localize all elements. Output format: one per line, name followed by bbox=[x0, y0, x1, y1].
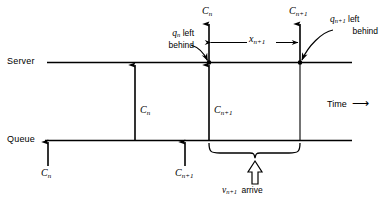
annotation-left-behind-n1-tail: left bbox=[346, 14, 360, 24]
annotation-left-behind-n-line1: qn left bbox=[132, 28, 194, 40]
arrival-interval-brace bbox=[209, 143, 300, 158]
arrival-label-n1-sub: n+1 bbox=[182, 172, 194, 180]
annotation-left-behind-n1-symbol-sub: n+1 bbox=[335, 17, 346, 24]
mid-label-n1-base: C bbox=[214, 104, 221, 115]
completion-label-n1-base: C bbox=[289, 5, 296, 16]
arrival-label-n-base: C bbox=[41, 167, 48, 178]
queue-axis-label: Queue bbox=[7, 135, 35, 144]
completion-label-n: Cn bbox=[202, 6, 212, 18]
annotation-left-behind-n-tail: left bbox=[180, 28, 194, 38]
annotation-arrive-symbol-sub: n+1 bbox=[226, 188, 237, 195]
mid-label-n: Cn bbox=[140, 105, 150, 117]
mid-label-n1-sub: n+1 bbox=[221, 109, 233, 117]
annotation-arrive-text: arrive bbox=[237, 185, 263, 195]
time-arrow-icon: ⟶ bbox=[349, 96, 369, 110]
arrival-label-n-sub: n bbox=[48, 172, 52, 180]
annotation-left-behind-n: qn left behind bbox=[132, 28, 194, 51]
annotation-left-behind-n1-line2: behind bbox=[330, 26, 378, 37]
arrival-label-n: Cn bbox=[41, 168, 51, 180]
completion-label-n1: Cn+1 bbox=[289, 6, 307, 18]
annotation-left-behind-n1-line1: qn+1 left bbox=[330, 14, 386, 26]
annotation-left-behind-n-line2: behind bbox=[132, 40, 194, 51]
arrival-label-n1: Cn+1 bbox=[175, 168, 193, 180]
annotation-arrive: vn+1 arrive bbox=[222, 186, 263, 196]
completion-label-n-base: C bbox=[202, 5, 209, 16]
mid-label-n-sub: n bbox=[147, 109, 151, 117]
departure-dot-n bbox=[207, 60, 212, 65]
mid-label-n-base: C bbox=[140, 104, 147, 115]
interval-label-sub: n+1 bbox=[253, 38, 265, 46]
departure-dot-n1 bbox=[298, 60, 303, 65]
server-axis-label: Server bbox=[7, 57, 35, 66]
interval-label: xn+1 bbox=[249, 34, 265, 46]
completion-label-n1-sub: n+1 bbox=[296, 10, 308, 18]
arrive-hollow-arrow bbox=[248, 161, 262, 184]
time-text: Time bbox=[327, 99, 347, 109]
annotation-left-behind-n1-symbol: qn+1 bbox=[330, 14, 346, 24]
mid-label-n1: Cn+1 bbox=[214, 105, 232, 117]
timing-diagram-figure: Server Queue Time ⟶ Cn Cn+1 Cn Cn+1 Cn C… bbox=[0, 0, 390, 205]
annotation-arrive-symbol: vn+1 bbox=[222, 185, 237, 195]
time-axis-label: Time ⟶ bbox=[327, 97, 369, 110]
annotation-left-behind-n1: qn+1 left behind bbox=[330, 14, 386, 37]
completion-label-n-sub: n bbox=[209, 10, 213, 18]
leader-arrow-left-behind-n1 bbox=[302, 30, 333, 60]
arrival-label-n1-base: C bbox=[175, 167, 182, 178]
